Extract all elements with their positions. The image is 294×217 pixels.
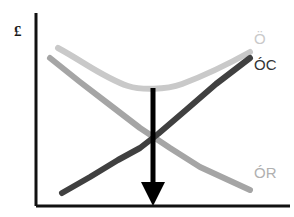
series-label-oc: ÓC — [254, 56, 277, 73]
series-label-o: Ö — [254, 30, 266, 47]
economics-cost-revenue-chart: £ Ö ÓC ÓR — [0, 0, 294, 217]
y-axis-label: £ — [14, 23, 22, 39]
chart-figure: £ Ö ÓC ÓR — [0, 0, 294, 217]
series-label-or: ÓR — [254, 164, 277, 181]
